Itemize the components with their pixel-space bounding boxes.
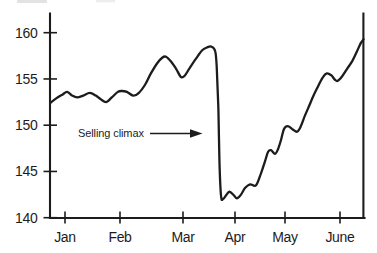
scan-smudge bbox=[17, 0, 47, 3]
chart-canvas: 160155150145140 JanFebMarAprMayJune Sell… bbox=[0, 0, 377, 253]
price-line bbox=[50, 39, 364, 200]
x-tick-label: Jan bbox=[54, 229, 76, 245]
y-tick-label: 140 bbox=[15, 210, 38, 226]
x-axis-ticks: JanFebMarAprMayJune bbox=[54, 212, 355, 245]
annotation-label: Selling climax bbox=[78, 127, 144, 139]
x-tick-label: June bbox=[325, 229, 355, 245]
x-tick-label: Feb bbox=[108, 229, 132, 245]
y-tick-label: 150 bbox=[15, 117, 38, 133]
y-tick-label: 145 bbox=[15, 163, 38, 179]
x-tick-label: May bbox=[272, 229, 298, 245]
x-tick-label: Apr bbox=[225, 229, 247, 245]
selling-climax-annotation: Selling climax bbox=[78, 127, 203, 139]
y-tick-label: 155 bbox=[15, 71, 38, 87]
y-tick-label: 160 bbox=[15, 25, 38, 41]
annotation-arrow-head-icon bbox=[190, 129, 203, 138]
scan-smudge bbox=[96, 0, 115, 2]
price-chart-figure: 160155150145140 JanFebMarAprMayJune Sell… bbox=[0, 0, 377, 253]
scan-artifacts bbox=[17, 0, 115, 3]
x-tick-label: Mar bbox=[171, 229, 195, 245]
